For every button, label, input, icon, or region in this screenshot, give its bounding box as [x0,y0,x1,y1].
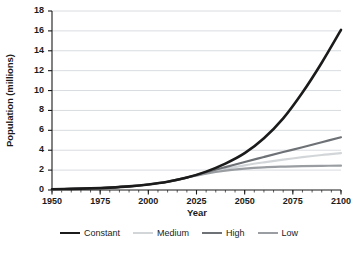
legend-swatch-high [202,232,222,235]
legend-label-low: Low [282,228,299,238]
y-tick-label: 10 [22,85,44,95]
x-axis-title: Year [52,207,342,218]
series-line-medium [52,153,341,189]
x-tick-label: 2000 [128,196,168,206]
x-tick-label: 2075 [273,196,313,206]
legend-item-high[interactable]: High [202,228,245,238]
y-tick-label: 18 [22,5,44,15]
legend-swatch-low [258,232,278,234]
x-tick-label: 2050 [225,196,265,206]
y-tick-label: 16 [22,25,44,35]
y-tick-label: 4 [22,144,44,154]
y-tick-label: 2 [22,164,44,174]
y-tick-label: 0 [22,184,44,194]
series-line-high [52,137,341,189]
legend-swatch-medium [133,232,153,234]
y-tick-label: 8 [22,104,44,114]
legend-label-constant: Constant [84,228,120,238]
chart-legend: ConstantMediumHighLow [0,228,358,238]
y-tick-label: 12 [22,65,44,75]
legend-item-constant[interactable]: Constant [60,228,120,238]
x-tick-label: 2025 [177,196,217,206]
series-line-low [52,166,341,190]
legend-item-medium[interactable]: Medium [133,228,189,238]
legend-label-high: High [226,228,245,238]
population-projection-chart: Population (millions) 024681012141618 19… [0,0,358,257]
plot-area [0,0,358,257]
x-tick-label: 1975 [80,196,120,206]
legend-swatch-constant [60,232,80,235]
y-tick-label: 14 [22,45,44,55]
y-tick-label: 6 [22,124,44,134]
legend-item-low[interactable]: Low [258,228,299,238]
x-tick-label: 1950 [32,196,72,206]
legend-label-medium: Medium [157,228,189,238]
x-tick-label: 2100 [321,196,358,206]
series-lines [52,30,341,189]
gridlines [52,11,341,170]
